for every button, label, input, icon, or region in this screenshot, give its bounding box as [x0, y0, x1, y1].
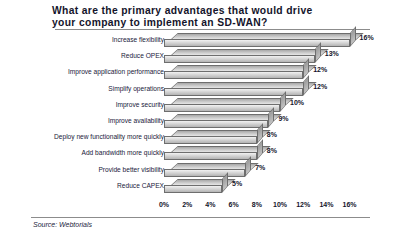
bar — [164, 98, 286, 114]
bar-front-face — [164, 39, 350, 47]
bar-value-label: 12% — [313, 66, 327, 73]
source-note: Source: Webtorials — [33, 221, 92, 228]
bar — [164, 49, 321, 65]
bar — [164, 179, 228, 195]
category-label: Simplify operations — [14, 85, 164, 93]
bar-value-label: 16% — [360, 34, 374, 41]
category-label: Deploy new functionality more quickly — [14, 133, 164, 141]
x-axis-tick-label: 12% — [296, 201, 310, 208]
x-axis-tick-label: 14% — [319, 201, 333, 208]
bar — [164, 163, 251, 179]
bar-value-label: 12% — [313, 83, 327, 90]
x-axis-tick-label: 0% — [159, 201, 169, 208]
bar-row: Improve security10% — [0, 98, 396, 114]
category-label: Increase flexibility — [14, 36, 164, 44]
plot-area: Increase flexibility16%Reduce OPEX13%Imp… — [0, 33, 396, 205]
bar-value-label: 13% — [325, 50, 339, 57]
chart-figure: What are the primary advantages that wou… — [0, 0, 396, 245]
bar-front-face — [164, 71, 303, 79]
title-divider — [55, 29, 370, 30]
category-label: Improve application performance — [14, 68, 164, 76]
bar-value-label: 7% — [255, 164, 265, 171]
category-label: Add bandwidth more quickly — [14, 149, 164, 157]
page-title: What are the primary advantages that wou… — [52, 5, 364, 28]
bar-front-face — [164, 136, 257, 144]
bar-row: Increase flexibility16% — [0, 33, 396, 49]
x-axis-tick-label: 6% — [229, 201, 239, 208]
bar-front-face — [164, 55, 315, 63]
bar-row: Reduce OPEX13% — [0, 49, 396, 65]
x-axis-tick-label: 2% — [182, 201, 192, 208]
category-label: Provide better visibility — [14, 166, 164, 174]
bar — [164, 130, 263, 146]
bar-front-face — [164, 169, 245, 177]
footer-divider — [31, 217, 370, 218]
bar-row: Improve application performance12% — [0, 65, 396, 81]
bar-row: Simplify operations12% — [0, 82, 396, 98]
category-label: Improve security — [14, 101, 164, 109]
bar — [164, 65, 309, 81]
title-block: What are the primary advantages that wou… — [52, 5, 364, 28]
bar-front-face — [164, 185, 222, 193]
category-label: Reduce OPEX — [14, 52, 164, 60]
bar-value-label: 8% — [267, 131, 277, 138]
bar — [164, 82, 309, 98]
x-axis: 0%2%4%6%8%10%12%14%16% — [164, 201, 372, 213]
bar-value-label: 9% — [278, 115, 288, 122]
bar-value-label: 8% — [267, 147, 277, 154]
category-label: Reduce CAPEX — [14, 182, 164, 190]
bar-row: Add bandwidth more quickly8% — [0, 146, 396, 162]
bar-row: Provide better visibility7% — [0, 163, 396, 179]
x-axis-tick-label: 4% — [205, 201, 215, 208]
bar-row: Deploy new functionality more quickly8% — [0, 130, 396, 146]
bar — [164, 33, 356, 49]
bar-front-face — [164, 120, 268, 128]
x-axis-tick-label: 10% — [273, 201, 287, 208]
bar-front-face — [164, 104, 280, 112]
bar-front-face — [164, 152, 257, 160]
x-axis-tick-label: 8% — [252, 201, 262, 208]
bar-value-label: 10% — [290, 99, 304, 106]
bar-value-label: 5% — [232, 180, 242, 187]
category-label: Improve availability — [14, 117, 164, 125]
bar-row: Reduce CAPEX5% — [0, 179, 396, 195]
bar-row: Improve availability9% — [0, 114, 396, 130]
x-axis-tick-label: 16% — [343, 201, 357, 208]
